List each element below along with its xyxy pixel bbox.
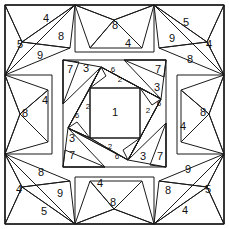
label-edge-bottom-8: 8 <box>110 196 116 208</box>
label-bl-4: 4 <box>16 183 22 195</box>
label-inner-2-left: 2 <box>86 102 91 111</box>
label-corner-3-topleft: 3 <box>83 62 89 74</box>
label-corner-7-topright: 7 <box>155 63 161 75</box>
label-tr-4: 4 <box>206 38 212 50</box>
label-corner-7-topleft: 7 <box>67 63 73 75</box>
label-inner-6-left: 6 <box>75 111 80 120</box>
label-br-9: 9 <box>185 163 191 175</box>
label-edge-bottom-4: 4 <box>97 177 103 189</box>
label-center-1: 1 <box>112 106 118 118</box>
label-br-8: 8 <box>165 184 171 196</box>
label-tl-9: 9 <box>37 49 43 61</box>
label-bl-8: 8 <box>38 166 44 178</box>
label-tl-5: 5 <box>17 38 23 50</box>
quilt-block-svg: 1 6 2 2 6 2 6 2 6 7 3 7 3 7 3 7 3 4 5 8 <box>0 0 229 229</box>
label-tr-8: 8 <box>187 53 193 65</box>
label-inner-2-right: 2 <box>146 106 151 115</box>
label-inner-6-bottom: 6 <box>115 152 120 161</box>
label-br-4: 4 <box>182 204 188 216</box>
diagram-canvas: 1 6 2 2 6 2 6 2 6 7 3 7 3 7 3 7 3 4 5 8 <box>0 0 229 229</box>
quilt-block-figure: 1 6 2 2 6 2 6 2 6 7 3 7 3 7 3 7 3 4 5 8 <box>0 0 229 229</box>
label-tl-4: 4 <box>43 12 49 24</box>
label-edge-top-8: 8 <box>112 19 118 31</box>
label-inner-2-bottom: 2 <box>108 142 113 151</box>
label-tl-8: 8 <box>58 30 64 42</box>
label-corner-3-bottomleft: 3 <box>69 132 75 144</box>
label-inner-6-top: 6 <box>111 65 116 74</box>
label-tr-9: 9 <box>169 32 175 44</box>
label-corner-7-bottomright: 7 <box>157 150 163 162</box>
label-inner-6-right: 6 <box>157 99 162 108</box>
label-edge-left-8: 8 <box>22 107 28 119</box>
label-edge-right-4: 4 <box>180 120 186 132</box>
label-edge-top-4: 4 <box>125 37 131 49</box>
label-edge-left-4: 4 <box>42 94 48 106</box>
label-corner-7-bottomleft: 7 <box>69 149 75 161</box>
label-corner-3-bottomright: 3 <box>140 150 146 162</box>
label-edge-right-8: 8 <box>200 106 206 118</box>
label-bl-5: 5 <box>41 205 47 217</box>
label-tr-5: 5 <box>183 16 189 28</box>
label-br-5: 5 <box>205 183 211 195</box>
label-corner-3-topright: 3 <box>154 81 160 93</box>
label-inner-2-top: 2 <box>118 75 123 84</box>
label-bl-9: 9 <box>57 187 63 199</box>
